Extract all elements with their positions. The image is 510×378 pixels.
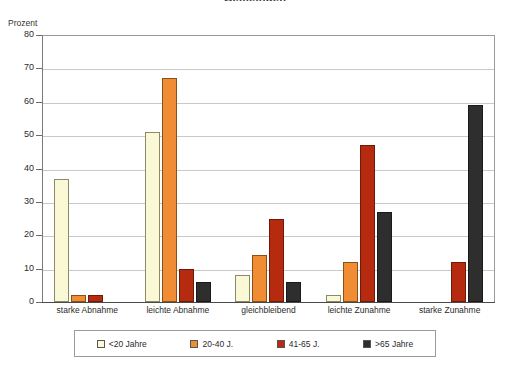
bar-group xyxy=(133,35,224,302)
legend-item[interactable]: <20 Jahre xyxy=(97,339,147,349)
bar[interactable] xyxy=(162,78,177,302)
y-axis-tick-label: 20 xyxy=(0,229,34,239)
x-axis-tick-label: starke Zunahme xyxy=(404,305,495,315)
legend-label: 20-40 J. xyxy=(202,339,233,349)
bar-chart: Gemeinden Prozent 01020304050607080 star… xyxy=(0,0,510,378)
legend-swatch-icon xyxy=(97,340,105,348)
legend-item[interactable]: 20-40 J. xyxy=(190,339,233,349)
bar[interactable] xyxy=(377,212,392,302)
y-axis-tick-label: 40 xyxy=(0,163,34,173)
legend-swatch-icon xyxy=(190,340,198,348)
bar[interactable] xyxy=(326,295,341,302)
bar[interactable] xyxy=(179,269,194,302)
y-axis-tick-label: 10 xyxy=(0,263,34,273)
x-axis-tick-label: leichte Zunahme xyxy=(314,305,405,315)
bar[interactable] xyxy=(269,219,284,302)
bar[interactable] xyxy=(71,295,86,302)
y-axis-tick-label: 60 xyxy=(0,96,34,106)
legend-item[interactable]: 41-65 J. xyxy=(277,339,320,349)
legend-item[interactable]: >65 Jahre xyxy=(363,339,413,349)
y-axis-tick-label: 70 xyxy=(0,62,34,72)
bar[interactable] xyxy=(196,282,211,302)
bar[interactable] xyxy=(343,262,358,302)
x-axis-tick-label: gleichbleibend xyxy=(223,305,314,315)
x-axis-tick-label: leichte Abnahme xyxy=(133,305,224,315)
y-axis-title: Prozent xyxy=(8,18,37,28)
x-axis-tick-label: starke Abnahme xyxy=(42,305,133,315)
y-axis-tick-label: 80 xyxy=(0,29,34,39)
x-axis-line xyxy=(42,302,495,303)
bar-group xyxy=(223,35,314,302)
bar-group xyxy=(404,35,495,302)
bar[interactable] xyxy=(451,262,466,302)
x-axis-labels: starke Abnahmeleichte Abnahmegleichbleib… xyxy=(42,305,495,315)
y-axis-tick-label: 0 xyxy=(0,296,34,306)
bar[interactable] xyxy=(54,179,69,302)
legend-swatch-icon xyxy=(277,340,285,348)
bar[interactable] xyxy=(145,132,160,302)
legend-swatch-icon xyxy=(363,340,371,348)
bar[interactable] xyxy=(252,255,267,302)
y-axis-tick-label: 30 xyxy=(0,196,34,206)
bar-group xyxy=(42,35,133,302)
chart-legend: <20 Jahre20-40 J.41-65 J.>65 Jahre xyxy=(74,330,436,357)
bar-group xyxy=(314,35,405,302)
bar[interactable] xyxy=(88,295,103,302)
bar[interactable] xyxy=(235,275,250,302)
legend-label: <20 Jahre xyxy=(109,339,147,349)
legend-label: 41-65 J. xyxy=(289,339,320,349)
legend-label: >65 Jahre xyxy=(375,339,413,349)
y-axis-tick-label: 50 xyxy=(0,129,34,139)
bar[interactable] xyxy=(468,105,483,302)
bar[interactable] xyxy=(360,145,375,302)
chart-title: Gemeinden xyxy=(0,0,510,1)
bar[interactable] xyxy=(286,282,301,302)
bar-groups xyxy=(42,35,495,302)
